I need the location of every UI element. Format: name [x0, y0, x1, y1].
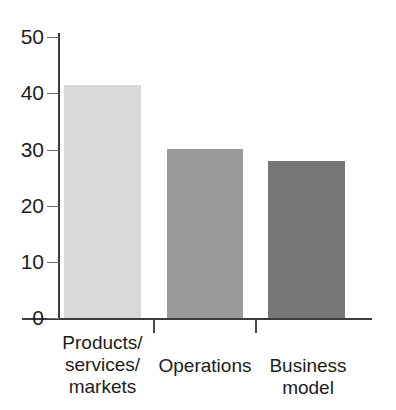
y-tick-mark-0 [47, 318, 59, 319]
x-axis-label-line-3: markets [50, 376, 155, 398]
x-axis-label-business-model: Business model [258, 355, 358, 399]
y-tick-label-0: 0 [0, 307, 44, 328]
y-tick-label-20: 20 [0, 195, 44, 216]
y-tick-mark-40 [47, 93, 59, 94]
y-tick-mark-30 [47, 150, 59, 151]
y-tick-mark-50 [47, 37, 59, 38]
x-axis-label-products-services-markets: Products/ services/ markets [50, 332, 155, 398]
bar-products-services-markets [64, 85, 141, 318]
bar-business-model [268, 161, 345, 318]
y-tick-mark-10 [47, 262, 59, 263]
bar-chart: 0 10 20 30 40 50 Products/ services/ mar… [0, 0, 396, 410]
y-tick-label-10: 10 [0, 251, 44, 272]
x-axis-line [22, 318, 372, 320]
x-axis-label-line-1: Business [258, 355, 358, 377]
x-axis-label-line-2: model [258, 377, 358, 399]
x-axis-label-line-1: Products/ [50, 332, 155, 354]
y-axis-line [58, 33, 60, 320]
y-tick-label-50: 50 [0, 26, 44, 47]
x-axis-label-operations: Operations [155, 355, 255, 377]
x-axis-label-line-1: Operations [155, 355, 255, 377]
bar-operations [167, 149, 243, 318]
y-tick-mark-20 [47, 206, 59, 207]
y-tick-label-30: 30 [0, 139, 44, 160]
y-tick-label-40: 40 [0, 82, 44, 103]
x-axis-label-line-2: services/ [50, 354, 155, 376]
x-tick-mark-2 [255, 320, 257, 333]
